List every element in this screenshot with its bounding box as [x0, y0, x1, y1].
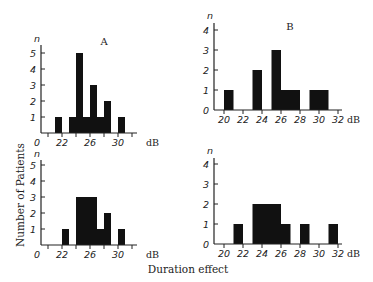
x-tick-label: 24: [256, 114, 268, 125]
histogram-bar: [76, 197, 97, 245]
x-tick-label: 30: [112, 249, 124, 260]
y-symbol-label: n: [34, 33, 40, 44]
x-tick-label: 26: [84, 249, 96, 260]
histogram-bar: [90, 85, 97, 133]
panel-label: A: [99, 36, 108, 47]
x-unit-label: dB: [146, 249, 159, 260]
y-symbol-label: n: [207, 145, 213, 156]
panel-label: B: [286, 21, 293, 32]
y-tick-label: 3: [30, 192, 36, 203]
x-tick-label: 20: [218, 114, 230, 125]
x-tick-label: 26: [275, 114, 287, 125]
x-tick-label: 22: [237, 248, 249, 259]
x-axis-title: Duration effect: [148, 263, 229, 275]
y-tick-label: 1: [203, 219, 209, 230]
panel-bottom-left: 12345n0222630dB: [30, 148, 159, 260]
x-tick-label: 28: [294, 114, 306, 125]
panel-bottom-right: 01234n20222426283032dB: [203, 145, 360, 259]
histogram-bar: [55, 117, 62, 133]
histogram-bar: [329, 224, 339, 244]
x-tick-label: 32: [332, 114, 344, 125]
panel-top-right: 01234n20222426283032dBB: [203, 10, 360, 125]
x-unit-label: dB: [347, 114, 360, 125]
x-unit-label: dB: [146, 137, 159, 148]
histogram-bar: [281, 90, 300, 110]
histogram-bar: [234, 224, 244, 244]
y-tick-label: 4: [203, 25, 209, 36]
histogram-bar: [104, 213, 111, 245]
histogram-figure: Number of Patients Duration effect 12345…: [0, 0, 373, 282]
y-tick-label: 5: [30, 160, 36, 171]
histogram-bar: [62, 229, 69, 245]
y-tick-label: 2: [203, 65, 209, 76]
y-tick-label: 4: [30, 176, 36, 187]
y-tick-label: 0: [203, 239, 209, 250]
y-tick-label: 4: [203, 159, 209, 170]
x-tick-label: 22: [237, 114, 249, 125]
histogram-bar: [118, 117, 125, 133]
histogram-bar: [224, 90, 234, 110]
histogram-bar: [83, 117, 90, 133]
y-tick-label: 5: [30, 48, 36, 59]
y-tick-label: 1: [30, 112, 36, 123]
y-axis-title: Number of Patients: [14, 143, 26, 247]
y-tick-label: 1: [30, 224, 36, 235]
y-tick-label: 3: [203, 45, 209, 56]
histogram-bar: [310, 90, 329, 110]
y-tick-label: 4: [30, 64, 36, 75]
histogram-bar: [281, 224, 291, 244]
histogram-bar: [97, 229, 104, 245]
x-tick-label: 0: [34, 137, 40, 148]
histogram-bar: [69, 117, 76, 133]
y-symbol-label: n: [34, 148, 40, 159]
x-tick-label: 26: [275, 248, 287, 259]
y-symbol-label: n: [207, 10, 213, 21]
x-tick-label: 22: [56, 249, 68, 260]
y-tick-label: 2: [30, 208, 36, 219]
x-tick-label: 26: [84, 137, 96, 148]
y-tick-label: 2: [203, 199, 209, 210]
x-tick-label: 30: [112, 137, 124, 148]
panel-top-left: 12345n0222630dBA: [30, 33, 159, 148]
y-tick-label: 3: [203, 179, 209, 190]
y-tick-label: 2: [30, 96, 36, 107]
histogram-bar: [104, 101, 111, 133]
y-tick-label: 1: [203, 85, 209, 96]
x-tick-label: 24: [256, 248, 268, 259]
histogram-bar: [272, 50, 282, 110]
x-tick-label: 28: [294, 248, 306, 259]
histogram-bar: [253, 70, 263, 110]
x-tick-label: 0: [34, 249, 40, 260]
y-tick-label: 3: [30, 80, 36, 91]
histogram-bar: [118, 229, 125, 245]
x-tick-label: 20: [218, 248, 230, 259]
x-tick-label: 30: [313, 114, 325, 125]
x-tick-label: 30: [313, 248, 325, 259]
x-tick-label: 32: [332, 248, 344, 259]
x-tick-label: 22: [56, 137, 68, 148]
histogram-bar: [76, 53, 83, 133]
histogram-bar: [253, 204, 282, 244]
histogram-bar: [300, 224, 310, 244]
y-tick-label: 0: [203, 105, 209, 116]
histogram-bar: [97, 117, 104, 133]
x-unit-label: dB: [347, 248, 360, 259]
